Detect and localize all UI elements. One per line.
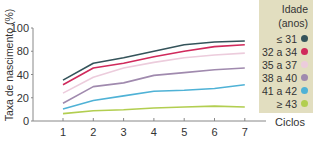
- legend-dot-icon: [301, 48, 308, 55]
- x-tick-label: 6: [211, 126, 217, 138]
- series-line: [63, 53, 245, 93]
- y-axis-label: Taxa de nascimento (%): [3, 7, 17, 123]
- legend-label: ≥ 43: [277, 98, 297, 110]
- legend-item: 32 a 34: [262, 45, 308, 58]
- legend-item: 35 a 37: [262, 58, 308, 71]
- legend-item: 38 a 40: [262, 71, 308, 84]
- y-tick-label: 20: [17, 92, 29, 104]
- legend-item: 41 a 42: [262, 84, 308, 97]
- y-tick-label: 80: [17, 45, 29, 57]
- legend-item: ≤ 31: [277, 32, 308, 45]
- x-tick-label: 3: [121, 126, 127, 138]
- legend-label: 41 a 42: [262, 85, 297, 97]
- legend-item: ≥ 43: [277, 97, 308, 110]
- legend-subtitle: (anos): [278, 17, 308, 29]
- legend-label: ≤ 31: [277, 33, 297, 45]
- legend-dot-icon: [301, 74, 308, 81]
- legend: Idade (anos) ≤ 31 32 a 34 35 a 37 38 a 4…: [259, 0, 313, 113]
- legend-label: 38 a 40: [262, 72, 297, 84]
- legend-dot-icon: [301, 61, 308, 68]
- x-tick-label: 4: [151, 126, 157, 138]
- legend-dot-icon: [301, 35, 308, 42]
- legend-dot-icon: [301, 100, 308, 107]
- x-axis-label: Ciclos: [275, 116, 305, 128]
- x-tick-label: 2: [90, 126, 96, 138]
- legend-label: 35 a 37: [262, 59, 297, 71]
- x-tick-label: 5: [181, 126, 187, 138]
- series-line: [63, 68, 245, 103]
- y-tick-label: 0: [23, 115, 29, 127]
- x-tick-label: 1: [60, 126, 66, 138]
- x-tick-label: 7: [242, 126, 248, 138]
- legend-title: Idade: [282, 3, 308, 15]
- legend-dot-icon: [301, 87, 308, 94]
- y-tick-label: 40: [17, 69, 29, 81]
- chart-lines: [63, 41, 245, 114]
- legend-label: 32 a 34: [262, 46, 297, 58]
- series-line: [63, 106, 245, 114]
